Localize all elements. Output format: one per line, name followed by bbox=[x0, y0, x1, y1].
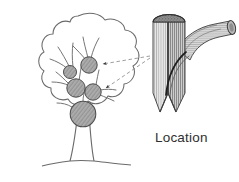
branch-collars bbox=[64, 57, 102, 127]
branch-collar bbox=[85, 84, 101, 100]
ground-line bbox=[42, 161, 131, 166]
figure-root: Location bbox=[0, 0, 239, 182]
tree-illustration bbox=[39, 13, 139, 166]
branch-collar bbox=[67, 79, 85, 97]
branch-collar bbox=[70, 101, 96, 127]
branch-attachment-diagram bbox=[0, 0, 239, 182]
location-label: Location bbox=[155, 131, 208, 145]
trunk-block-top-cap bbox=[153, 15, 185, 23]
branch-collar bbox=[64, 66, 77, 79]
branch-collar bbox=[81, 57, 97, 73]
trunk-section-callout bbox=[153, 15, 237, 113]
